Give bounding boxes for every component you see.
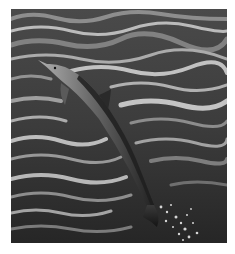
ocean-scene (11, 9, 227, 243)
dolphin-photo (11, 9, 227, 243)
